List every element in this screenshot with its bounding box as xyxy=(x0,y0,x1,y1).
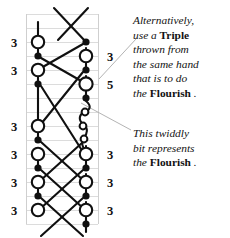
path-segment xyxy=(41,86,83,152)
note-a-line-3: thrown from xyxy=(133,42,199,57)
note-b-line-2: bit represents xyxy=(133,141,197,156)
right-throw-label: 5 xyxy=(107,78,113,92)
annotation-note-alternatively: Alternatively, use a Triple thrown from … xyxy=(133,13,199,101)
note-a-line-1: Alternatively, xyxy=(133,13,199,28)
throw-node-filled xyxy=(82,164,89,171)
note-a-line-6-period: . xyxy=(191,87,197,99)
throw-node-filled xyxy=(34,192,41,199)
note-a-line-4: the same hand xyxy=(133,57,199,72)
catch-node-open xyxy=(32,120,44,132)
throw-node-filled xyxy=(34,80,41,87)
flourish-keyword: Flourish xyxy=(150,156,191,168)
throw-node-filled xyxy=(82,192,89,199)
left-throw-label: 3 xyxy=(11,36,17,50)
throw-node-filled xyxy=(82,38,89,45)
flourish-keyword: Flourish xyxy=(150,87,191,99)
catch-node-open xyxy=(80,148,92,160)
left-throw-label: 3 xyxy=(11,120,17,134)
throw-node-filled xyxy=(34,52,41,59)
left-throw-label: 3 xyxy=(11,64,17,78)
throw-node-filled xyxy=(82,94,89,101)
note-b-line-3-period: . xyxy=(191,156,197,168)
note-b-line-3-text: the xyxy=(133,156,150,168)
throw-node-filled xyxy=(82,220,89,227)
catch-node-open xyxy=(32,64,44,76)
note-a-line-6: the Flourish . xyxy=(133,86,199,101)
note-a-line-5: that is to do xyxy=(133,71,199,86)
left-throw-label: 3 xyxy=(11,176,17,190)
catch-node-open xyxy=(79,77,92,90)
ladder-diagram-stage: 3 3 3 3 3 3 3 5 3 3 3 Alternatively, use… xyxy=(0,0,230,238)
left-throw-label: 3 xyxy=(11,204,17,218)
path-segment xyxy=(58,8,88,40)
right-throw-label: 3 xyxy=(107,204,113,218)
annotation-note-twiddly: This twiddly bit represents the Flourish… xyxy=(133,126,197,170)
catch-node-open xyxy=(32,204,44,216)
note-a-line-2: use a Triple xyxy=(133,28,199,43)
right-throw-label: 3 xyxy=(107,148,113,162)
note-a-line-2-text: use a xyxy=(133,29,160,41)
throw-node-filled xyxy=(34,136,41,143)
catch-node-open xyxy=(80,176,92,188)
note-b-line-3: the Flourish . xyxy=(133,155,197,170)
triple-keyword: Triple xyxy=(160,29,190,41)
path-segment xyxy=(54,8,86,42)
leader-line-note-a xyxy=(99,39,136,79)
catch-node-open xyxy=(80,204,92,216)
flourish-loop-node xyxy=(81,136,88,143)
flourish-loop-node xyxy=(82,109,89,116)
throw-node-filled xyxy=(82,66,89,73)
throw-node-filled xyxy=(34,164,41,171)
note-b-line-1: This twiddly xyxy=(133,126,197,141)
catch-node-open xyxy=(32,176,44,188)
right-throw-label: 3 xyxy=(107,50,113,64)
right-throw-label: 3 xyxy=(107,176,113,190)
catch-node-open xyxy=(32,36,44,48)
flourish-loop-node xyxy=(80,123,87,130)
catch-node-open xyxy=(32,148,44,160)
catch-node-open xyxy=(80,50,92,62)
note-a-line-6-text: the xyxy=(133,87,150,99)
left-throw-label: 3 xyxy=(11,148,17,162)
